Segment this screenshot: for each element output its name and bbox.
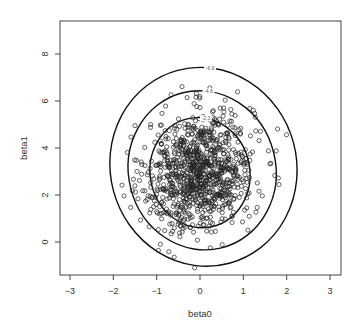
sample-point — [172, 226, 176, 230]
sample-point — [177, 198, 181, 202]
sample-point — [226, 123, 230, 127]
sample-point — [156, 133, 160, 137]
sample-point — [148, 125, 152, 129]
sample-point — [284, 133, 288, 137]
y-tick-label: 6 — [40, 98, 50, 103]
sample-point — [258, 129, 262, 133]
sample-point — [147, 225, 151, 229]
sample-point — [172, 255, 176, 259]
sample-point — [176, 117, 180, 121]
sample-point — [236, 161, 240, 165]
x-tick-label: −1 — [152, 286, 162, 296]
sample-point — [230, 220, 234, 224]
x-tick-label: −2 — [108, 286, 118, 296]
sample-point — [180, 85, 184, 89]
sample-point — [221, 114, 225, 118]
y-axis-title: beta1 — [18, 136, 29, 160]
sample-point — [167, 250, 171, 254]
sample-point — [135, 169, 139, 173]
sample-point — [185, 96, 189, 100]
sample-point — [155, 211, 159, 215]
sample-point — [255, 181, 259, 185]
sample-point — [247, 214, 251, 218]
sample-point — [136, 197, 140, 201]
sample-point — [164, 104, 168, 108]
sample-point — [239, 161, 243, 165]
y-tick-label: 2 — [40, 192, 50, 197]
sample-point — [193, 266, 197, 270]
sample-point — [231, 148, 235, 152]
sample-point — [255, 205, 259, 209]
sample-point — [248, 134, 252, 138]
sample-point — [160, 217, 164, 221]
contour-label: -4.6 — [204, 88, 213, 94]
sample-point — [133, 184, 137, 188]
sample-point — [140, 172, 144, 176]
sample-point — [192, 230, 196, 234]
contour-label: -2.3 — [202, 115, 211, 121]
sample-point — [143, 145, 147, 149]
sample-point — [163, 228, 167, 232]
sample-point — [156, 227, 160, 231]
sample-point — [194, 119, 198, 123]
sample-point — [174, 137, 178, 141]
sample-point — [227, 148, 231, 152]
sample-point — [195, 238, 199, 242]
sample-point — [160, 111, 164, 115]
sample-point — [234, 157, 238, 161]
sample-point — [162, 175, 166, 179]
sample-point — [246, 228, 250, 232]
scatter-plot: -2.3-4.6-6.9 −3−2−10123 02468 beta0 beta… — [0, 0, 357, 329]
x-axis: −3−2−10123 — [65, 275, 333, 296]
sample-point — [162, 183, 166, 187]
sample-point — [155, 187, 159, 191]
sample-point — [145, 173, 149, 177]
x-tick-label: 2 — [284, 286, 289, 296]
sample-point — [192, 102, 196, 106]
sample-point — [235, 90, 239, 94]
sample-point — [236, 140, 240, 144]
y-axis: 02468 — [40, 51, 60, 244]
sample-point — [213, 229, 217, 233]
sample-point — [137, 178, 141, 182]
sample-point — [209, 230, 213, 234]
y-tick-label: 8 — [40, 51, 50, 56]
sample-point — [205, 229, 209, 233]
sample-point — [161, 195, 165, 199]
sample-point — [239, 191, 243, 195]
sample-point — [229, 107, 233, 111]
sample-point — [133, 124, 137, 128]
sample-point — [158, 242, 162, 246]
y-tick-label: 4 — [40, 145, 50, 150]
x-tick-label: 3 — [327, 286, 332, 296]
sample-point — [240, 220, 244, 224]
sample-point — [254, 210, 258, 214]
sample-point — [274, 149, 278, 153]
y-tick-label: 0 — [40, 239, 50, 244]
sample-point — [266, 149, 270, 153]
plot-frame — [60, 21, 341, 275]
sample-point — [257, 189, 261, 193]
x-axis-title: beta0 — [188, 308, 212, 319]
sample-point — [260, 194, 264, 198]
sample-point — [131, 177, 135, 181]
sample-point — [237, 195, 241, 199]
sample-point — [129, 135, 133, 139]
x-tick-label: 1 — [241, 286, 246, 296]
contour-label: -6.9 — [206, 65, 215, 71]
sample-point — [239, 184, 243, 188]
sample-point — [173, 132, 177, 136]
sample-point — [220, 211, 224, 215]
sample-point — [223, 98, 227, 102]
sample-point — [257, 139, 261, 143]
sample-point — [129, 205, 133, 209]
sample-point — [200, 125, 204, 129]
sample-point — [222, 120, 226, 124]
sample-point — [254, 129, 258, 133]
x-tick-label: −3 — [65, 286, 75, 296]
sample-point — [120, 183, 124, 187]
sample-point — [139, 218, 143, 222]
sample-point — [220, 243, 224, 247]
sample-point — [277, 182, 281, 186]
sample-point — [217, 205, 221, 209]
